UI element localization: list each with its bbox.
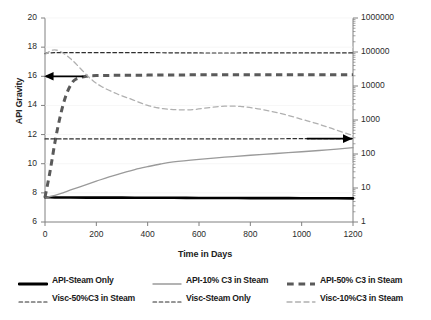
legend-label: Visc-Steam Only <box>186 293 251 303</box>
series-line-2 <box>45 75 353 197</box>
legend-item[interactable]: Visc-50%C3 in Steam <box>18 290 135 306</box>
legend-row-api: API-Steam OnlyAPI-10% C3 in SteamAPI-50%… <box>0 272 431 288</box>
legend-label: Visc-10%C3 in Steam <box>320 293 403 303</box>
plot-area: API Gravity Viscosity at 30°C (cP) Time … <box>0 0 431 268</box>
legend-item[interactable]: API-10% C3 in Steam <box>152 272 268 288</box>
legend-item[interactable]: Visc-Steam Only <box>152 290 251 306</box>
annotation-layer <box>46 76 352 138</box>
legend-swatch-icon <box>152 275 182 285</box>
legend-item[interactable]: Visc-10%C3 in Steam <box>286 290 403 306</box>
axes-layer <box>41 18 358 226</box>
chart-figure: API Gravity Viscosity at 30°C (cP) Time … <box>0 0 431 320</box>
series-line-0 <box>45 197 353 198</box>
series-line-4 <box>45 53 353 54</box>
legend-swatch-icon <box>286 275 316 285</box>
series-layer <box>45 50 353 199</box>
legend-label: Visc-50%C3 in Steam <box>52 293 135 303</box>
chart-canvas <box>0 0 431 268</box>
chart-legend: API-Steam OnlyAPI-10% C3 in SteamAPI-50%… <box>0 268 431 320</box>
legend-swatch-icon <box>286 293 316 303</box>
series-line-1 <box>45 148 353 198</box>
series-line-5 <box>45 50 353 135</box>
legend-label: API-Steam Only <box>52 275 114 285</box>
legend-item[interactable]: API-Steam Only <box>18 272 114 288</box>
legend-label: API-10% C3 in Steam <box>186 275 268 285</box>
legend-label: API-50% C3 in Steam <box>320 275 402 285</box>
legend-swatch-icon <box>18 293 48 303</box>
legend-swatch-icon <box>152 293 182 303</box>
legend-item[interactable]: API-50% C3 in Steam <box>286 272 402 288</box>
legend-row-visc: Visc-50%C3 in SteamVisc-Steam OnlyVisc-1… <box>0 290 431 306</box>
legend-swatch-icon <box>18 275 48 285</box>
